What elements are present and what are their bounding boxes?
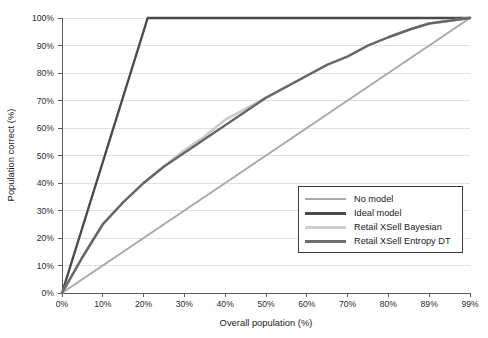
- legend-item: Ideal model: [305, 206, 456, 220]
- x-tick-label: 80%: [380, 299, 398, 309]
- legend-item: No model: [305, 192, 456, 206]
- x-tick-label: 30%: [176, 299, 194, 309]
- y-axis-title: Population correct (%): [5, 109, 16, 202]
- y-tick-label: 0%: [42, 288, 55, 298]
- x-axis-tick-labels: 0%10%20%30%40%50%60%70%80%89%99%: [56, 299, 479, 309]
- x-tick-label: 50%: [257, 299, 275, 309]
- y-tick-label: 50%: [37, 151, 55, 161]
- chart-figure: 0%10%20%30%40%50%60%70%80%89%99% 0%10%20…: [0, 0, 488, 338]
- legend-swatch-retail-xsell-bayesian: [305, 226, 346, 229]
- x-axis-title: Overall population (%): [220, 317, 313, 328]
- x-tick-label: 10%: [94, 299, 112, 309]
- legend-swatch-ideal-model: [305, 212, 346, 215]
- legend-swatch-retail-xsell-entropy-dt: [305, 240, 346, 243]
- chart-plot-area: 0%10%20%30%40%50%60%70%80%89%99% 0%10%20…: [0, 0, 488, 338]
- x-tick-label: 70%: [339, 299, 357, 309]
- x-tick-label: 20%: [135, 299, 153, 309]
- legend-swatch-no-model: [305, 198, 346, 200]
- x-tick-label: 40%: [217, 299, 235, 309]
- y-tick-label: 70%: [37, 96, 55, 106]
- legend-item: Retail XSell Bayesian: [305, 220, 456, 234]
- y-tick-label: 30%: [37, 206, 55, 216]
- legend-label-ideal-model: Ideal model: [354, 206, 402, 220]
- y-tick-label: 40%: [37, 178, 55, 188]
- legend-label-no-model: No model: [354, 192, 393, 206]
- x-tick-label: 99%: [461, 299, 479, 309]
- chart-legend: No model Ideal model Retail XSell Bayesi…: [298, 186, 463, 253]
- y-axis-tick-labels: 0%10%20%30%40%50%60%70%80%90%100%: [32, 13, 54, 298]
- x-tick-label: 60%: [298, 299, 316, 309]
- legend-item: Retail XSell Entropy DT: [305, 234, 456, 248]
- x-tick-label: 89%: [421, 299, 439, 309]
- y-tick-label: 90%: [37, 41, 55, 51]
- legend-label-retail-xsell-bayesian: Retail XSell Bayesian: [354, 220, 442, 234]
- x-tick-label: 0%: [56, 299, 69, 309]
- y-tick-label: 20%: [37, 233, 55, 243]
- y-tick-label: 60%: [37, 123, 55, 133]
- y-tick-label: 10%: [37, 261, 55, 271]
- y-tick-label: 80%: [37, 68, 55, 78]
- legend-label-retail-xsell-entropy-dt: Retail XSell Entropy DT: [354, 234, 451, 248]
- y-tick-label: 100%: [32, 13, 54, 23]
